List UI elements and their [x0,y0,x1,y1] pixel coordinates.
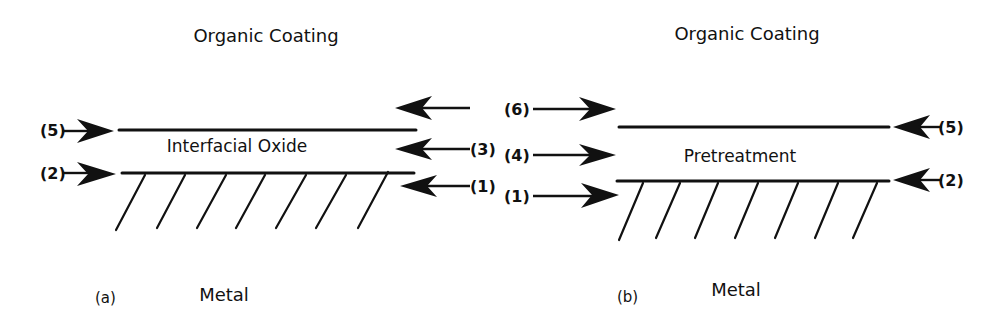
arrow-label: (1) [504,187,530,206]
arrow-label: (6) [504,100,530,119]
arrow-label: (2) [40,164,66,183]
arrow-label: (3) [470,140,496,159]
panel-b-arrow-5: (5) [893,115,964,139]
arrow-label: (5) [40,121,66,140]
arrow-label: (2) [938,171,964,190]
panel-b-arrow-2: (2) [893,168,964,192]
panel-b-middle-label: Pretreatment [684,146,797,166]
panel-a-arrow-1: (1) [400,175,496,197]
panel-a-arrow-5: (5) [40,119,114,143]
arrow-label: (1) [470,177,496,196]
panel-b-arrow-6: (6) [504,97,616,121]
arrow-label: (5) [938,118,964,137]
panel-b: Organic Coating Pretreatment (6) (4) [504,23,964,306]
panel-b-metal-hatch [619,183,877,240]
panel-a-metal-hatch [116,172,388,230]
panel-a-top-label: Organic Coating [193,25,338,46]
panel-b-top-label: Organic Coating [674,23,819,44]
panel-a-arrow-coating [395,96,470,120]
panel-a-middle-label: Interfacial Oxide [167,136,307,156]
panel-a-caption: (a) [95,289,116,307]
panel-a-bottom-label: Metal [199,284,249,305]
panel-a-arrow-3: (3) [395,138,496,160]
coating-interface-diagram: Organic Coating Interfacial Oxide (5) (2… [0,0,1001,319]
panel-a-arrow-2: (2) [40,162,116,186]
panel-b-bottom-label: Metal [711,279,761,300]
panel-b-caption: (b) [617,288,638,306]
panel-a: Organic Coating Interfacial Oxide (5) (2… [40,25,496,307]
panel-b-arrow-4: (4) [504,144,616,166]
panel-b-arrow-1: (1) [504,183,619,208]
arrow-label: (4) [504,146,530,165]
